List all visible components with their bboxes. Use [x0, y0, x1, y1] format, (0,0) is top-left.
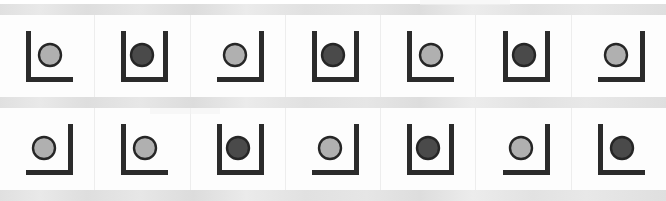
l-container-icon [588, 118, 650, 180]
container-cell[interactable] [476, 108, 571, 190]
u-container-icon [302, 25, 364, 87]
container-row-bottom [0, 108, 666, 190]
u-container-icon [207, 118, 269, 180]
separator-band-middle [0, 97, 666, 108]
container-cell[interactable] [0, 15, 95, 97]
screenshot-canvas [0, 0, 666, 201]
container-cell[interactable] [476, 15, 571, 97]
u-container-icon [493, 25, 555, 87]
container-cell[interactable] [381, 108, 476, 190]
u-container-icon [111, 25, 173, 87]
l-container-icon [111, 118, 173, 180]
container-cell[interactable] [286, 108, 381, 190]
u-container-icon [397, 118, 459, 180]
container-cell[interactable] [95, 15, 190, 97]
separator-band-bottom [0, 190, 666, 201]
j-container-icon [16, 118, 78, 180]
separator-band-top [0, 4, 666, 15]
container-cell[interactable] [572, 15, 666, 97]
j-container-icon [493, 118, 555, 180]
container-cell[interactable] [0, 108, 95, 190]
container-cell[interactable] [191, 108, 286, 190]
container-cell[interactable] [381, 15, 476, 97]
l-container-icon [16, 25, 78, 87]
j-container-icon [207, 25, 269, 87]
l-container-icon [397, 25, 459, 87]
container-row-top [0, 15, 666, 97]
container-cell[interactable] [286, 15, 381, 97]
container-cell[interactable] [95, 108, 190, 190]
container-cell[interactable] [191, 15, 286, 97]
j-container-icon [302, 118, 364, 180]
j-container-icon [588, 25, 650, 87]
container-cell[interactable] [572, 108, 666, 190]
